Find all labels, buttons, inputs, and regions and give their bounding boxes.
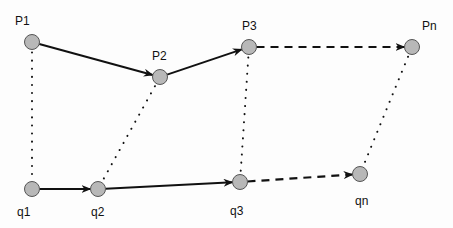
node-q3 xyxy=(233,175,248,190)
diagram-svg: P1P2P3Pnq1q2q3qn xyxy=(0,0,453,228)
dashed-arrow-edges xyxy=(247,47,404,182)
node-qn xyxy=(353,167,368,182)
node-P3 xyxy=(242,40,257,55)
node-q2 xyxy=(91,182,106,197)
node-label-P2: P2 xyxy=(152,49,167,63)
solid-arrow-edges xyxy=(39,44,242,189)
edge-Pn-qn xyxy=(364,57,408,165)
node-label-P1: P1 xyxy=(15,14,30,28)
correspondence-dotted-lines xyxy=(32,53,408,180)
edge-q2-q3 xyxy=(105,182,232,188)
trajectory-diagram: P1P2P3Pnq1q2q3qn xyxy=(0,0,453,228)
node-Pn xyxy=(405,40,420,55)
node-label-q3: q3 xyxy=(230,204,244,218)
node-label-q2: q2 xyxy=(91,205,105,219)
node-q1 xyxy=(25,182,40,197)
edge-P2-q2 xyxy=(103,86,155,180)
node-label-P3: P3 xyxy=(242,19,257,33)
edge-P2-P3 xyxy=(167,49,242,74)
node-label-q1: q1 xyxy=(17,205,31,219)
edge-q3-qn xyxy=(247,174,352,181)
nodes xyxy=(25,35,420,197)
edge-P3-q3 xyxy=(241,57,249,171)
node-P1 xyxy=(25,35,40,50)
node-label-qn: qn xyxy=(355,194,368,208)
edge-P1-P2 xyxy=(39,44,153,75)
node-label-Pn: Pn xyxy=(422,19,437,33)
node-P2 xyxy=(153,70,168,85)
